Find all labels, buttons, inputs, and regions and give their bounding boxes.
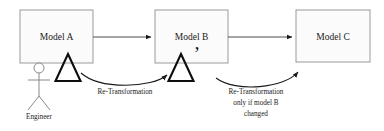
node-model-a[interactable]: Model A: [20, 10, 93, 63]
model-c-label: Model C: [316, 32, 350, 42]
retransform-conditional-label-line-2: only if model B: [233, 99, 279, 107]
retransform-conditional-label-line-3: changed: [244, 110, 268, 118]
diagram-canvas: Model A Model B Model C ’ Re-Transformat…: [0, 0, 384, 131]
retransform-conditional-label-line-1: Re-Transformation: [229, 88, 284, 96]
curved-arrow-retransform-b-to-a: [81, 73, 167, 85]
actor-leg-right-icon: [39, 96, 50, 110]
actor-head-icon: [34, 63, 44, 73]
node-model-b[interactable]: Model B: [155, 10, 228, 63]
curved-arrow-retransform-c-to-b: [216, 72, 298, 87]
actor-leg-left-icon: [28, 96, 39, 110]
delta-prime-glyph: ’: [194, 43, 200, 64]
engineer-label: Engineer: [26, 113, 53, 121]
node-model-c[interactable]: Model C: [296, 10, 370, 62]
model-a-label: Model A: [40, 32, 74, 42]
model-b-label: Model B: [175, 32, 209, 42]
engineer-actor[interactable]: Engineer: [26, 63, 53, 121]
retransform-label-1: Re-Transformation: [98, 88, 153, 96]
diagram-svg: Model A Model B Model C ’ Re-Transformat…: [0, 0, 384, 131]
